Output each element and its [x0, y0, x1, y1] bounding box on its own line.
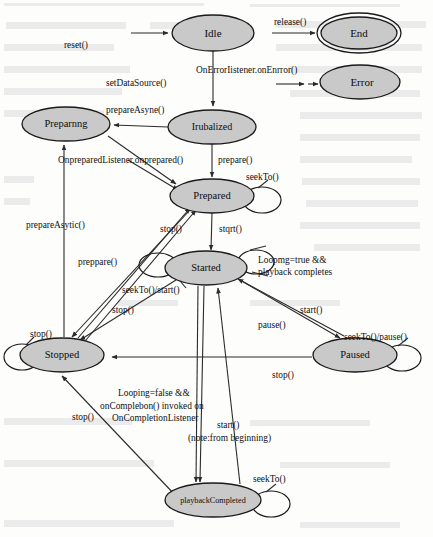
- transition-on-completion: [196, 286, 204, 482]
- transition-start-from-beginning: [218, 288, 240, 484]
- transition-start-from-prepared: [211, 213, 212, 250]
- edge-label-start-note-line1: start(): [217, 420, 239, 431]
- edge-label-stop-from-playback: stop(): [72, 412, 94, 423]
- state-label-stopped: Stopped: [45, 349, 80, 360]
- edge-label-pause: pause(): [258, 320, 286, 331]
- transition-start-from-paused: [238, 279, 344, 336]
- edge-label-stop-from-paused: stop(): [272, 370, 294, 381]
- state-label-preparing: Preparnng: [44, 118, 88, 129]
- edge-label-preppare: preppare(): [78, 257, 117, 268]
- transition-prepare-async: [114, 125, 168, 127]
- edge-label-reset: reset(): [64, 40, 88, 51]
- edge-label-prepare-async: prepareAsyne(): [106, 105, 164, 116]
- edge-label-stop-from-prepared: stop(): [160, 224, 182, 235]
- state-label-end: End: [350, 27, 368, 39]
- edge-label-completion-line2: onComplebon() invoked on: [100, 401, 204, 412]
- edge-label-set-data-source: setDataSource(): [106, 78, 166, 89]
- state-label-started: Started: [191, 262, 221, 273]
- state-node-stopped[interactable]: Stopped: [20, 338, 104, 372]
- state-node-paused[interactable]: Paused: [313, 338, 397, 372]
- state-node-initialized[interactable]: Irubalized: [168, 110, 256, 144]
- edge-label-start-note-line2: (note:from beginning): [188, 433, 271, 444]
- edge-label-completion-line1: Looping=false &&: [118, 388, 190, 398]
- edge-label-start-from-prepared: stqrt(): [219, 224, 242, 235]
- edge-label-seek-to-start: seekTo()/start(): [122, 285, 180, 296]
- edge-label-prepare: prepare(): [218, 155, 252, 166]
- edge-label-stop-self-left: stop(): [30, 329, 52, 340]
- edge-label-seek-to-playback: seekTo(): [253, 474, 286, 485]
- state-label-prepared: Prepared: [193, 190, 231, 201]
- diagram-canvas: Idle End Error Irubalized Preparnng Prep…: [0, 0, 433, 537]
- state-label-error: Error: [350, 76, 374, 88]
- edge-label-loop-line2: playback completes: [258, 267, 333, 277]
- state-label-paused: Paused: [340, 349, 370, 360]
- state-diagram: Idle End Error Irubalized Preparnng Prep…: [0, 0, 433, 537]
- edge-label-start-from-paused: start(): [300, 305, 322, 316]
- edge-label-completion-line3: OnCompletionListener: [112, 413, 199, 423]
- state-node-idle[interactable]: Idle: [172, 15, 254, 51]
- state-node-prepared[interactable]: Prepared: [170, 179, 254, 213]
- edge-label-release: release(): [274, 17, 306, 28]
- state-node-playback-completed[interactable]: playbackCompleted: [165, 483, 261, 517]
- edge-label-on-error: OnErrorIistener.onEnrror(): [196, 65, 297, 76]
- state-node-end[interactable]: End: [317, 13, 401, 53]
- edge-label-stop-from-started: stop(): [112, 305, 134, 316]
- edge-label-seek-to-prepared: seekTo(): [246, 172, 279, 183]
- state-node-started[interactable]: Started: [165, 251, 247, 285]
- state-label-idle: Idle: [204, 27, 221, 39]
- edge-label-on-prepared: OnpreparedListener.onprepared(): [58, 155, 183, 166]
- state-label-playback-completed: playbackCompleted: [180, 496, 245, 505]
- edge-label-prepare-asytic: prepareAsytic(): [26, 220, 85, 231]
- state-node-error[interactable]: Error: [320, 65, 400, 99]
- state-label-initialized: Irubalized: [192, 121, 233, 132]
- edge-label-seek-to-pause: seekTo()/pause(): [344, 332, 407, 343]
- edge-label-loop-line1: Loopmg=true &&: [258, 255, 327, 265]
- state-node-preparing[interactable]: Preparnng: [22, 107, 110, 141]
